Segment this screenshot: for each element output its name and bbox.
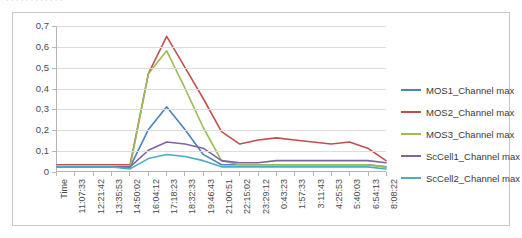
category-axis-tick (258, 172, 259, 176)
gridline (57, 47, 386, 48)
value-axis-label: 0,6 (36, 42, 49, 52)
category-axis-label: 19:46:43 (207, 179, 216, 214)
chart-object-frame[interactable]: 00,10,20,30,40,50,60,7 Time11:07:3312:21… (12, 12, 510, 226)
category-axis-label: 5:40:03 (353, 179, 362, 209)
gridline (57, 109, 386, 110)
category-axis-title: Time (60, 179, 69, 199)
legend-color-swatch (401, 155, 421, 157)
category-axis-tick (111, 172, 112, 176)
category-axis-tick (368, 172, 369, 176)
gridline (57, 151, 386, 152)
value-axis-tick (52, 68, 56, 69)
category-axis-tick (276, 172, 277, 176)
series-line (57, 36, 386, 164)
legend-item[interactable]: MOS2_Channel max (401, 101, 519, 123)
value-axis-tick (52, 130, 56, 131)
category-axis-tick (331, 172, 332, 176)
legend-item[interactable]: MOS3_Channel max (401, 123, 519, 145)
category-axis-label: 3:11:43 (317, 179, 326, 208)
category-axis-label: 14:50:02 (133, 179, 142, 214)
value-axis-tick (52, 151, 56, 152)
category-axis-label: 23:29:12 (262, 179, 271, 214)
value-axis-label: 0,3 (36, 104, 49, 114)
legend-item-label: ScCell1_Channel max (426, 151, 520, 162)
value-axis-label: 0,5 (36, 63, 49, 73)
value-axis-tick (52, 26, 56, 27)
clipped-header-label: · · · · · · · · · · · · (0, 0, 522, 5)
category-axis-label: 21:00:51 (225, 179, 234, 214)
plot-area[interactable] (56, 26, 386, 172)
legend-color-swatch (401, 133, 421, 135)
value-axis-label: 0,7 (36, 21, 49, 31)
value-axis-label: 0,4 (36, 84, 49, 94)
value-axis-label: 0 (44, 167, 49, 177)
clipped-header-text: · · · · · · · · · · · · (0, 0, 522, 9)
category-axis-label: 22:15:02 (243, 179, 252, 214)
legend-item-label: MOS1_Channel max (426, 85, 514, 96)
chart-legend[interactable]: MOS1_Channel maxMOS2_Channel maxMOS3_Cha… (401, 79, 519, 189)
category-axis-tick (203, 172, 204, 176)
category-axis-tick (74, 172, 75, 176)
category-axis-label: 12:21:42 (97, 179, 106, 214)
legend-item[interactable]: MOS1_Channel max (401, 79, 519, 101)
category-axis-label: 16:04:12 (152, 179, 161, 214)
plot-area-wrapper: 00,10,20,30,40,50,60,7 Time11:07:3312:21… (56, 26, 386, 172)
category-axis-tick (313, 172, 314, 176)
category-axis-label: 8:08:22 (390, 179, 399, 209)
category-axis-tick (166, 172, 167, 176)
category-axis-tick (93, 172, 94, 176)
category-axis-label: 4:25:53 (335, 179, 344, 209)
legend-item-label: MOS2_Channel max (426, 107, 514, 118)
value-axis-label: 0,1 (36, 146, 49, 156)
value-axis-tick (52, 109, 56, 110)
legend-item-label: ScCell2_Channel max (426, 173, 520, 184)
gridline (57, 26, 386, 27)
value-axis-label: 0,2 (36, 125, 49, 135)
series-line (57, 107, 386, 167)
category-axis-tick (239, 172, 240, 176)
legend-color-swatch (401, 89, 421, 91)
category-axis-tick (294, 172, 295, 176)
category-axis-label: 18:32:33 (188, 179, 197, 214)
category-axis-tick (184, 172, 185, 176)
legend-color-swatch (401, 177, 421, 179)
chart-screenshot: · · · · · · · · · · · · 00,10,20,30,40,5… (0, 0, 522, 238)
value-axis-tick (52, 47, 56, 48)
legend-item[interactable]: ScCell2_Channel max (401, 167, 519, 189)
gridline (57, 68, 386, 69)
category-axis-tick (221, 172, 222, 176)
value-axis-tick (52, 89, 56, 90)
series-line (57, 142, 386, 167)
category-axis-tick (349, 172, 350, 176)
category-axis-tick (129, 172, 130, 176)
category-axis-label: 17:18:23 (170, 179, 179, 214)
gridline (57, 130, 386, 131)
category-axis-tick (386, 172, 387, 176)
legend-color-swatch (401, 111, 421, 113)
category-axis-label: 0:43:23 (280, 179, 289, 209)
category-axis-label: 11:07:33 (78, 179, 87, 213)
series-line (57, 154, 386, 169)
category-axis-label: 6:54:13 (372, 179, 381, 209)
category-axis-tick (56, 172, 57, 176)
category-axis-label: 1:57:33 (298, 179, 307, 209)
gridline (57, 89, 386, 90)
legend-item-label: MOS3_Channel max (426, 129, 514, 140)
category-axis-tick (148, 172, 149, 176)
category-axis-label: 13:35:53 (115, 179, 124, 214)
legend-item[interactable]: ScCell1_Channel max (401, 145, 519, 167)
